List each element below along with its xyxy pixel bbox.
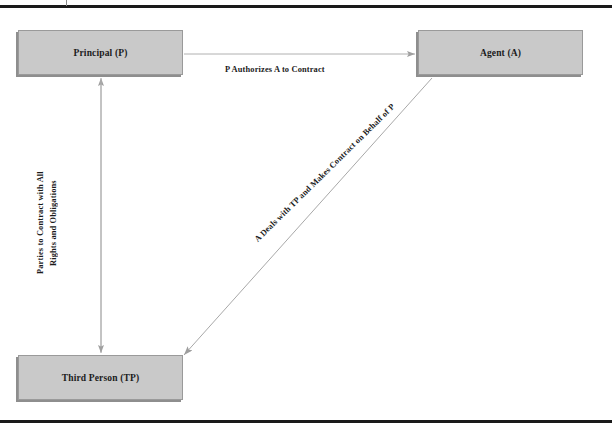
node-principal[interactable]: Principal (P) <box>18 30 183 75</box>
node-agent-label: Agent (A) <box>480 48 521 58</box>
diagram-page: Principal (P) Agent (A) Third Person (TP… <box>0 0 612 433</box>
node-third-person-label: Third Person (TP) <box>62 373 140 383</box>
page-rule-bottom <box>0 420 612 423</box>
node-third-person[interactable]: Third Person (TP) <box>18 355 183 400</box>
node-principal-label: Principal (P) <box>74 48 128 58</box>
edge-label-parties-to-contract: Parties to Contract with All Rights and … <box>34 148 60 298</box>
node-agent[interactable]: Agent (A) <box>418 30 583 75</box>
edge-agent-to-third-person <box>184 78 432 355</box>
edge-label-p-authorizes-a: P Authorizes A to Contract <box>225 65 325 74</box>
edge-label-parties-line2: Rights and Obligations <box>47 148 60 298</box>
edge-label-parties-line1: Parties to Contract with All <box>34 148 47 298</box>
